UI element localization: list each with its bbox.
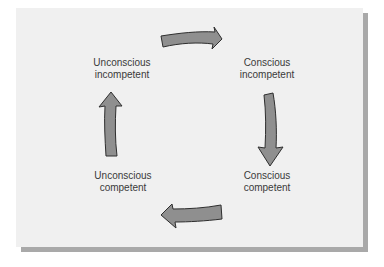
node-unconscious-incompetent: Unconscious incompetent bbox=[67, 57, 177, 81]
node-label-line1: Unconscious bbox=[67, 57, 177, 69]
node-unconscious-competent: Unconscious competent bbox=[68, 170, 178, 194]
node-label-line2: competent bbox=[212, 182, 322, 194]
node-conscious-competent: Conscious competent bbox=[212, 170, 322, 194]
arrow-right-icon bbox=[161, 27, 222, 49]
arrow-up-icon bbox=[99, 92, 122, 156]
node-label-line1: Conscious bbox=[212, 57, 322, 69]
arrow-down-icon bbox=[258, 93, 283, 166]
node-label-line2: incompetent bbox=[212, 69, 322, 81]
cycle-arrows bbox=[0, 0, 384, 267]
node-label-line1: Unconscious bbox=[68, 170, 178, 182]
arrow-left-icon bbox=[161, 204, 222, 228]
node-conscious-incompetent: Conscious incompetent bbox=[212, 57, 322, 81]
node-label-line1: Conscious bbox=[212, 170, 322, 182]
node-label-line2: incompetent bbox=[67, 69, 177, 81]
node-label-line2: competent bbox=[68, 182, 178, 194]
